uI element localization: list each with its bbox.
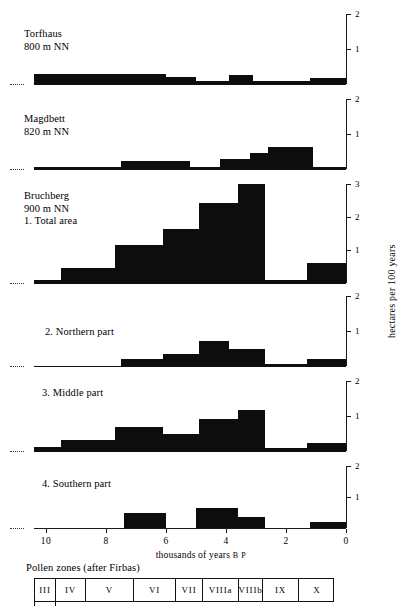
x-tick-label: 4 (211, 536, 241, 546)
panel-label-southern-part: 4. Southern part (42, 478, 111, 491)
x-tick-label: 8 (91, 536, 121, 546)
pollen-zones-table: IIIIVVVIVIIVIIIaVIIIbIXX (34, 578, 334, 602)
x-axis-title-main: thousands of years (156, 550, 233, 560)
pollen-zone-cell: VIIIb (239, 579, 263, 601)
pollen-zone-cell: VIIIa (203, 579, 239, 601)
x-axis-title: thousands of years B P (0, 550, 402, 560)
y-tick-label: 1 (355, 493, 360, 502)
x-tick-label: 10 (31, 536, 61, 546)
y-tick-label: 2 (355, 462, 360, 471)
pollen-zone-cell: III (35, 579, 56, 601)
bar (124, 513, 166, 529)
pollen-zone-cell: VII (176, 579, 203, 601)
pollen-zone-subtick (55, 602, 56, 606)
y-tick (347, 466, 351, 467)
bar (196, 508, 238, 528)
x-tick (346, 529, 347, 533)
y-tick (347, 497, 351, 498)
pollen-zone-subtick (34, 602, 35, 606)
y-axis-title: hectares per 100 years (386, 244, 397, 338)
pollen-zone-cell: X (299, 579, 335, 601)
x-tick-label: 2 (271, 536, 301, 546)
pollen-zone-cell: IV (56, 579, 86, 601)
x-tick (106, 529, 107, 533)
x-tick (166, 529, 167, 533)
bar (238, 517, 265, 528)
pollen-zones-caption: Pollen zones (after Firbas) (26, 562, 140, 573)
x-tick (226, 529, 227, 533)
x-axis-title-suffix: B P (233, 551, 247, 560)
pollen-zone-cell: IX (263, 579, 299, 601)
pollen-zone-cell: V (86, 579, 134, 601)
x-axis-lead-dash (10, 528, 24, 529)
pollen-zone-cell: VI (134, 579, 176, 601)
x-tick (286, 529, 287, 533)
x-axis (34, 528, 346, 529)
x-tick-label: 0 (331, 536, 361, 546)
x-tick (46, 529, 47, 533)
x-tick-label: 6 (151, 536, 181, 546)
